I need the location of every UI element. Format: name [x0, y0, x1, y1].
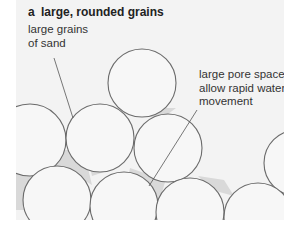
- diagram-panel: alarge, rounded grains large grains of s…: [16, 0, 284, 220]
- label-line: movement: [199, 95, 284, 109]
- grain: [224, 183, 284, 220]
- grains-leader-line: [54, 58, 73, 118]
- grain: [134, 114, 202, 182]
- title-text: large, rounded grains: [41, 5, 164, 19]
- figure-title: alarge, rounded grains: [28, 5, 164, 19]
- label-line: large pore spaces: [199, 68, 284, 82]
- pores-label: large pore spaces allow rapid water move…: [199, 68, 284, 109]
- grains-label: large grains of sand: [28, 23, 88, 50]
- grain: [66, 104, 134, 172]
- label-line: allow rapid water: [199, 82, 284, 96]
- grain: [108, 49, 176, 117]
- label-line: large grains: [28, 23, 88, 37]
- label-line: of sand: [28, 37, 88, 51]
- panel-letter: a: [28, 5, 41, 19]
